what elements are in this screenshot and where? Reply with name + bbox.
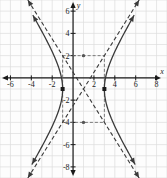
asymptote-negative-slope-arrow-b xyxy=(134,172,139,178)
x-axis-tick-label: -4 xyxy=(28,80,35,89)
hyperbola-graph: -6-4-22468642-2-4-6-8xy xyxy=(0,0,167,178)
box-bottom-marker xyxy=(82,121,85,124)
y-axis-label: y xyxy=(76,1,81,10)
vertex-left xyxy=(61,87,65,91)
x-axis-tick-label: 8 xyxy=(155,80,159,89)
y-axis-tick-label: 4 xyxy=(66,29,70,38)
y-axis-tick-label: -6 xyxy=(63,141,70,150)
hyperbola-right-branch xyxy=(104,16,135,165)
asymptote-positive-slope-arrow-b xyxy=(134,0,139,6)
x-axis-tick-label: 6 xyxy=(134,80,138,89)
x-axis-tick-label: 4 xyxy=(113,80,117,89)
coordinate-plane: -6-4-22468642-2-4-6-8xy xyxy=(0,0,167,178)
x-axis-tick-label: -2 xyxy=(49,80,56,89)
asymptote-positive-slope-arrow-a xyxy=(28,172,33,178)
x-axis-tick-label: -6 xyxy=(7,80,14,89)
y-axis-tick-label: 2 xyxy=(66,52,70,61)
y-axis-arrow-up xyxy=(70,2,75,8)
y-axis-tick-label: -8 xyxy=(63,163,70,172)
hyperbola-left-branch xyxy=(32,16,63,165)
box-top-marker xyxy=(82,54,85,57)
y-axis-tick-label: 6 xyxy=(66,7,70,16)
y-axis-tick-label: -2 xyxy=(63,96,70,105)
vertex-right xyxy=(102,87,106,91)
y-axis-arrow-down xyxy=(70,170,75,176)
x-axis-label: x xyxy=(159,67,164,76)
x-axis-tick-label: 2 xyxy=(92,80,96,89)
asymptote-negative-slope-arrow-a xyxy=(28,0,33,6)
